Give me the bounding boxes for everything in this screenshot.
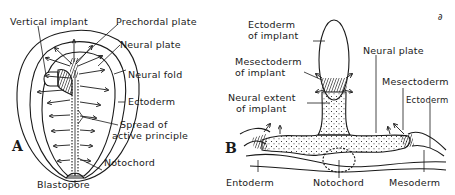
label-prechordal-plate: Prechordal plate (116, 17, 197, 27)
label-mesectoderm-of-implant-2: of implant (235, 68, 285, 78)
panel-letter-b: B (225, 140, 237, 156)
label-notochord-a: Notochord (104, 158, 155, 168)
label-spread-line2: active principle (112, 131, 188, 141)
label-ectoderm-of-implant-2: of implant (248, 31, 298, 41)
label-neural-fold: Neural fold (128, 70, 182, 80)
label-ectoderm-a: Ectoderm (128, 97, 175, 107)
label-neural-extent-2: of implant (236, 104, 286, 114)
label-spread-line1: Spread of (120, 120, 167, 130)
label-mesectoderm-b: Mesectoderm (382, 77, 449, 87)
label-mesectoderm-of-implant-1: Mesectoderm (235, 57, 302, 67)
label-neural-plate-b: Neural plate (363, 46, 424, 56)
label-neural-extent-1: Neural extent (228, 93, 296, 103)
label-vertical-implant: Vertical implant (10, 17, 88, 27)
label-neural-plate-a: Neural plate (120, 40, 181, 50)
label-entoderm: Entoderm (226, 178, 274, 188)
panel-letter-a: A (12, 138, 23, 154)
label-mesoderm: Mesoderm (389, 178, 440, 188)
label-ectoderm-b: Ectoderm (406, 95, 448, 105)
corner-mark: ∂ (438, 12, 443, 22)
label-blastopore: Blastopore (37, 180, 90, 190)
label-ectoderm-of-implant-1: Ectoderm (248, 20, 295, 30)
label-notochord-b: Notochord (313, 178, 364, 188)
